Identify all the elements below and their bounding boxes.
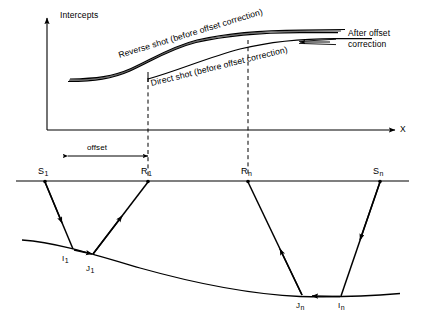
node-label-jn-sub: n xyxy=(300,304,304,311)
station-dot-s1 xyxy=(43,180,47,184)
station-label-r1-sub: 1 xyxy=(148,170,152,177)
after-offset-correction-line1: After offset xyxy=(348,28,390,39)
node-label-in-base: I xyxy=(338,301,340,310)
station-dot-rn xyxy=(246,180,250,184)
node-label-j1-sub: 1 xyxy=(90,267,94,274)
offset-correction-leader-lower xyxy=(299,43,336,44)
intercept-curves xyxy=(68,30,372,82)
node-label-i1-sub: 1 xyxy=(65,257,69,264)
ray-paths xyxy=(45,182,380,297)
y-axis-label: Intercepts xyxy=(60,10,98,20)
ray-in-to-jn xyxy=(312,296,340,297)
station-label-s1: S1 xyxy=(38,166,48,177)
node-label-in: In xyxy=(338,301,345,311)
station-label-sn: Sn xyxy=(373,166,383,177)
station-dot-sn xyxy=(378,180,382,184)
station-label-rn: Rn xyxy=(241,166,252,177)
node-label-i1-base: I xyxy=(62,254,64,263)
station-label-r1-base: R xyxy=(141,166,148,176)
station-label-s1-sub: 1 xyxy=(44,170,48,177)
station-label-rn-base: R xyxy=(241,166,248,176)
station-label-rn-sub: n xyxy=(248,170,252,177)
ray-sn-arrow xyxy=(360,182,380,240)
ray-s1-arrow xyxy=(45,182,62,223)
seismic-refraction-figure: Intercepts X Reverse shot (before offset… xyxy=(0,0,425,326)
ray-j1-arrow xyxy=(93,216,122,254)
node-label-in-sub: n xyxy=(341,304,345,311)
ray-i1-to-j1 xyxy=(74,250,92,254)
node-label-j1: J1 xyxy=(86,264,94,274)
node-label-jn: Jn xyxy=(296,301,304,311)
station-label-r1: R1 xyxy=(141,166,152,177)
station-label-sn-sub: n xyxy=(379,170,383,177)
node-label-i1: I1 xyxy=(62,254,69,264)
after-offset-correction-line2: correction xyxy=(348,39,386,50)
x-axis-label: X xyxy=(400,124,406,134)
station-dot-r1 xyxy=(146,180,150,184)
offset-label: offset xyxy=(87,143,107,152)
ray-jn-arrow xyxy=(280,249,302,295)
